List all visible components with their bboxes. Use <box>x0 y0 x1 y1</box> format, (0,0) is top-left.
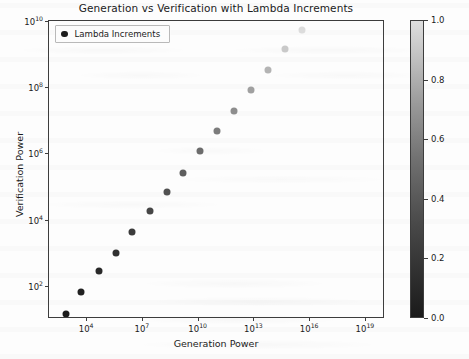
plot-area: 1021041061081010 1041071010101310161019 <box>48 20 384 318</box>
y-tick-label: 108 <box>28 82 43 92</box>
data-point <box>248 86 255 93</box>
data-point <box>282 46 289 53</box>
legend-marker-icon <box>61 31 68 38</box>
x-tick-mark <box>253 317 254 321</box>
data-point <box>214 128 221 135</box>
data-point <box>299 26 306 33</box>
data-point <box>196 147 203 154</box>
data-point <box>179 169 186 176</box>
legend-label: Lambda Increments <box>75 29 161 39</box>
chart-title: Generation vs Verification with Lambda I… <box>48 2 384 14</box>
y-tick-label: 1010 <box>24 16 43 26</box>
data-point <box>77 289 84 296</box>
x-tick-label: 1013 <box>244 323 263 333</box>
colorbar-tick-mark <box>424 199 428 200</box>
x-tick-label: 1016 <box>300 323 319 333</box>
x-axis-label: Generation Power <box>48 338 384 349</box>
x-tick-mark <box>86 317 87 321</box>
y-tick-mark <box>45 286 49 287</box>
x-tick-label: 107 <box>135 323 150 333</box>
colorbar-tick-mark <box>424 80 428 81</box>
data-point <box>129 229 136 236</box>
x-tick-mark <box>142 317 143 321</box>
x-tick-label: 104 <box>79 323 94 333</box>
colorbar-tick-label: 0.6 <box>431 135 445 144</box>
x-tick-mark <box>198 317 199 321</box>
y-tick-mark <box>45 87 49 88</box>
colorbar: 1.00.80.60.40.20.0 <box>410 20 424 318</box>
legend-box[interactable]: Lambda Increments <box>55 25 170 43</box>
data-point <box>163 189 170 196</box>
colorbar-tick-label: 0.4 <box>431 195 445 204</box>
y-tick-label: 102 <box>28 281 43 291</box>
y-tick-mark <box>45 153 49 154</box>
colorbar-tick-label: 0.8 <box>431 75 445 84</box>
x-tick-label: 1019 <box>356 323 375 333</box>
data-point <box>230 108 237 115</box>
colorbar-tick-mark <box>424 139 428 140</box>
x-tick-mark <box>365 317 366 321</box>
data-point <box>112 249 119 256</box>
data-points-layer <box>49 21 383 317</box>
data-point <box>146 208 153 215</box>
colorbar-tick-mark <box>424 20 428 21</box>
colorbar-tick-label: 0.2 <box>431 254 445 263</box>
x-tick-label: 1010 <box>188 323 207 333</box>
y-tick-label: 104 <box>28 214 43 224</box>
y-tick-label: 106 <box>28 148 43 158</box>
y-tick-mark <box>45 220 49 221</box>
colorbar-tick-mark <box>424 318 428 319</box>
data-point <box>264 66 271 73</box>
figure-canvas: Generation vs Verification with Lambda I… <box>0 0 469 359</box>
colorbar-tick-label: 0.0 <box>431 314 445 323</box>
colorbar-tick-label: 1.0 <box>431 16 445 25</box>
y-axis-label: Verification Power <box>14 100 25 250</box>
x-tick-mark <box>309 317 310 321</box>
colorbar-tick-mark <box>424 258 428 259</box>
data-point <box>62 311 69 317</box>
data-point <box>96 268 103 275</box>
y-tick-mark <box>45 21 49 22</box>
colorbar-gradient <box>410 20 424 318</box>
